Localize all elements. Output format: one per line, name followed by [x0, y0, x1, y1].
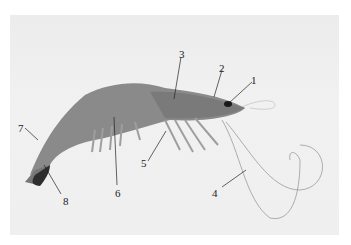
label-4: 4 — [212, 188, 218, 199]
label-8: 8 — [63, 196, 69, 207]
label-1: 1 — [251, 75, 257, 86]
label-3: 3 — [179, 49, 185, 60]
label-5: 5 — [141, 158, 147, 169]
label-6: 6 — [115, 188, 121, 199]
label-2: 2 — [219, 63, 225, 74]
label-7: 7 — [18, 123, 24, 134]
shrimp-illustration — [0, 0, 351, 245]
figure: 1 2 3 4 5 6 7 8 — [0, 0, 351, 245]
